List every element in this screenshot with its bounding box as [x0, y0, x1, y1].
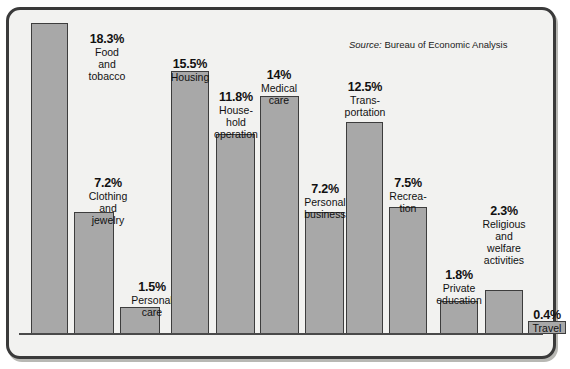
bar-value-religious-and-welfare-activities: 2.3%	[468, 204, 540, 218]
bar-value-transportation: 12.5%	[330, 80, 400, 94]
bar-value-medical-care: 14%	[244, 68, 314, 82]
bar-name-recreation-line2: tion	[373, 203, 443, 215]
bar-value-clothing-and-jewelry: 7.2%	[72, 176, 144, 190]
source-note: Source: Bureau of Economic Analysis	[349, 39, 507, 50]
axis-baseline	[19, 333, 543, 335]
bar-personal-business[interactable]	[305, 212, 344, 334]
bar-value-housing: 15.5%	[154, 57, 226, 71]
bar-value-recreation: 7.5%	[373, 176, 443, 190]
source-label: Source:	[349, 39, 382, 50]
plot-area: Source: Bureau of Economic Analysis 18.3…	[19, 18, 543, 346]
source-text: Bureau of Economic Analysis	[382, 39, 508, 50]
bar-value-travel: 0.4%	[513, 308, 570, 322]
bar-label-clothing-and-jewelry: 7.2% Clothing and jewelry	[72, 176, 144, 227]
chart-frame: Source: Bureau of Economic Analysis 18.3…	[6, 7, 556, 359]
bar-label-housing: 15.5% Housing	[154, 57, 226, 84]
bar-label-medical-care: 14% Medical care	[244, 68, 314, 107]
bar-name-religious-and-welfare-activities-line4: activities	[468, 255, 540, 267]
bar-name-medical-care-line2: care	[244, 95, 314, 107]
bar-value-food-and-tobacco: 18.3%	[71, 32, 143, 46]
bar-label-food-and-tobacco: 18.3% Food and tobacco	[71, 32, 143, 83]
bar-name-transportation-line2: portation	[330, 107, 400, 119]
bar-name-housing-line1: Housing	[154, 72, 226, 84]
bar-household-operation[interactable]	[216, 134, 255, 334]
bar-clothing-and-jewelry[interactable]	[74, 212, 114, 334]
bar-label-recreation: 7.5% Recrea- tion	[373, 176, 443, 215]
bar-recreation[interactable]	[389, 207, 427, 334]
bar-value-private-education: 1.8%	[423, 268, 495, 282]
bar-name-food-and-tobacco-line3: tobacco	[71, 71, 143, 83]
bar-name-clothing-and-jewelry-line3: jewelry	[72, 215, 144, 227]
bar-food-and-tobacco[interactable]	[31, 23, 68, 334]
bar-label-transportation: 12.5% Trans- portation	[330, 80, 400, 119]
bar-transportation[interactable]	[346, 122, 383, 334]
bar-label-religious-and-welfare-activities: 2.3% Religious and welfare activities	[468, 204, 540, 267]
bar-label-travel: 0.4% Travel	[513, 308, 570, 335]
